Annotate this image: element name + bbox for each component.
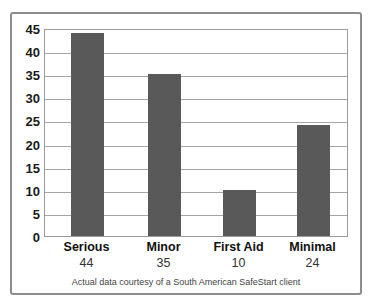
y-axis-tick-label: 5 xyxy=(6,208,40,221)
bar xyxy=(148,74,181,236)
y-axis: 454035302520151050 xyxy=(0,0,40,308)
plot-area xyxy=(44,29,348,237)
chart-footnote: Actual data courtesy of a South American… xyxy=(14,277,358,288)
bar xyxy=(223,190,256,236)
bar xyxy=(297,125,330,236)
category-block: Minimal24 xyxy=(263,240,363,271)
bar-chart-figure: 454035302520151050 Serious44Minor35First… xyxy=(0,0,375,308)
y-axis-tick-label: 40 xyxy=(6,46,40,59)
x-axis-category-labels: Serious44Minor35First Aid10Minimal24 xyxy=(44,240,348,280)
y-axis-tick-label: 10 xyxy=(6,185,40,198)
y-axis-tick-label: 20 xyxy=(6,139,40,152)
y-axis-tick-label: 25 xyxy=(6,115,40,128)
category-value: 24 xyxy=(263,256,363,271)
y-axis-tick-label: 30 xyxy=(6,92,40,105)
y-axis-tick-label: 15 xyxy=(6,162,40,175)
y-axis-tick-label: 35 xyxy=(6,69,40,82)
y-axis-tick-label: 0 xyxy=(6,231,40,244)
bar xyxy=(71,33,104,236)
y-axis-tick-label: 45 xyxy=(6,23,40,36)
category-label: Minimal xyxy=(263,240,363,255)
